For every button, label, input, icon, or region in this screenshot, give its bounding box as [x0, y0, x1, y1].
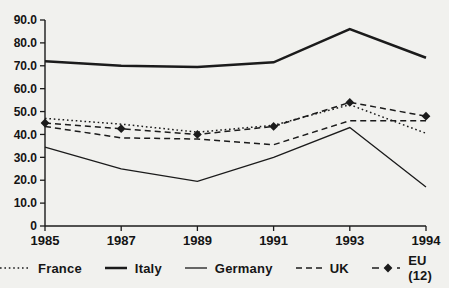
series-marker-eu-12	[41, 119, 50, 128]
series-line-italy	[45, 29, 426, 67]
legend: FranceItalyGermanyUKEU (12)	[0, 256, 449, 280]
legend-item-eu-12: EU (12)	[372, 253, 449, 283]
legend-item-germany: Germany	[185, 261, 273, 276]
y-tick-label: 80.0	[14, 36, 38, 50]
x-tick-label: 1989	[183, 233, 212, 248]
y-tick-label: 0	[30, 219, 37, 233]
legend-label-germany: Germany	[215, 261, 273, 276]
legend-label-italy: Italy	[135, 261, 162, 276]
legend-item-italy: Italy	[105, 261, 162, 276]
y-tick-label: 30.0	[14, 151, 38, 165]
x-tick-label: 1994	[412, 233, 442, 248]
y-tick-label: 10.0	[14, 196, 38, 210]
line-chart: 010.020.030.040.050.060.070.080.090.0198…	[0, 0, 449, 288]
series-line-uk	[45, 121, 426, 145]
x-tick-label: 1987	[107, 233, 136, 248]
x-tick-label: 1993	[335, 233, 364, 248]
legend-label-eu-12: EU (12)	[408, 253, 449, 283]
series-line-eu-12	[45, 102, 426, 134]
series-line-germany	[45, 128, 426, 188]
legend-item-france: France	[0, 261, 82, 276]
y-tick-label: 60.0	[14, 82, 38, 96]
y-tick-label: 40.0	[14, 128, 38, 142]
legend-sample-dotted-icon	[0, 262, 30, 274]
legend-sample-dashed-icon	[296, 262, 322, 274]
y-tick-label: 20.0	[14, 173, 38, 187]
legend-item-uk: UK	[296, 261, 349, 276]
x-tick-label: 1985	[31, 233, 60, 248]
legend-sample-dash-diamond-icon	[372, 262, 400, 274]
legend-label-france: France	[38, 261, 82, 276]
plot-area: 010.020.030.040.050.060.070.080.090.0198…	[0, 0, 449, 252]
series-marker-eu-12	[117, 124, 126, 133]
y-tick-label: 70.0	[14, 59, 38, 73]
series-marker-eu-12	[345, 98, 354, 107]
x-tick-label: 1991	[259, 233, 288, 248]
legend-sample-solid-thick-icon	[105, 262, 127, 274]
legend-sample-solid-thin-icon	[185, 262, 207, 274]
series-line-france	[45, 105, 426, 134]
series-marker-eu-12	[422, 112, 431, 121]
series-marker-eu-12	[269, 122, 278, 131]
y-tick-label: 50.0	[14, 105, 38, 119]
legend-label-uk: UK	[330, 261, 349, 276]
y-tick-label: 90.0	[14, 13, 38, 27]
